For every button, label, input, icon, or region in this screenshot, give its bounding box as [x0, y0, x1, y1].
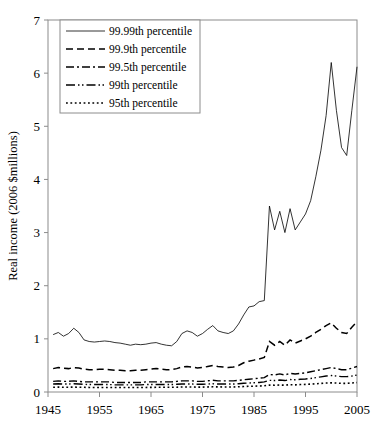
y-tick-label: 4: [34, 172, 41, 187]
x-tick-label: 2005: [344, 402, 370, 417]
y-tick-label: 0: [34, 385, 41, 400]
y-tick-label: 6: [34, 66, 41, 81]
x-tick-label: 1965: [138, 402, 164, 417]
y-tick-label: 2: [34, 278, 41, 293]
x-tick-label: 1985: [241, 402, 267, 417]
y-tick-label: 5: [34, 119, 41, 134]
chart-page: 012345671945195519651975198519952005Real…: [0, 0, 377, 429]
legend-label: 95th percentile: [109, 97, 178, 110]
x-tick-label: 1955: [87, 402, 113, 417]
y-tick-label: 3: [34, 225, 41, 240]
y-tick-label: 7: [34, 13, 41, 28]
chart-legend: 99.99th percentile99.9th percentile99.5t…: [60, 20, 200, 113]
legend-label: 99.9th percentile: [109, 43, 186, 56]
line-chart: 012345671945195519651975198519952005Real…: [0, 0, 377, 429]
legend-label: 99.99th percentile: [109, 25, 192, 38]
y-axis-title: Real income (2006 $millions): [6, 131, 20, 281]
legend-label: 99th percentile: [109, 79, 178, 92]
y-tick-label: 1: [34, 331, 41, 346]
series-line-3: [53, 375, 357, 385]
x-tick-label: 1995: [293, 402, 319, 417]
x-tick-label: 1945: [35, 402, 61, 417]
legend-label: 99.5th percentile: [109, 61, 186, 74]
series-line-1: [53, 322, 357, 371]
x-tick-label: 1975: [190, 402, 216, 417]
